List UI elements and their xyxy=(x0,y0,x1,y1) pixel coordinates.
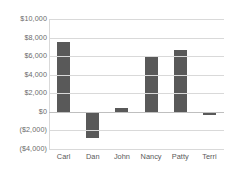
gridline xyxy=(49,130,224,131)
bar[interactable] xyxy=(86,112,99,138)
y-tick-label: $2,000 xyxy=(1,89,47,97)
x-tick-label: Nancy xyxy=(137,152,166,162)
plot-area xyxy=(49,19,224,149)
x-tick-label: John xyxy=(107,152,136,162)
bar[interactable] xyxy=(57,42,70,112)
bar[interactable] xyxy=(145,57,158,112)
y-axis-tick-labels: $10,000$8,000$6,000$4,000$2,000$0($2,000… xyxy=(0,0,47,176)
x-tick-label: Dan xyxy=(78,152,107,162)
y-tick-label: $8,000 xyxy=(1,34,47,42)
gridline xyxy=(49,19,224,20)
x-tick-label: Terri xyxy=(195,152,224,162)
y-tick-label: $0 xyxy=(1,108,47,116)
bar-chart: $10,000$8,000$6,000$4,000$2,000$0($2,000… xyxy=(0,0,229,176)
zero-baseline xyxy=(49,112,224,113)
x-tick-label: Patty xyxy=(166,152,195,162)
y-tick-label: $6,000 xyxy=(1,52,47,60)
gridline xyxy=(49,56,224,57)
y-tick-label: $4,000 xyxy=(1,71,47,79)
y-tick-label: $10,000 xyxy=(1,15,47,23)
x-tick-label: Carl xyxy=(49,152,78,162)
bar[interactable] xyxy=(174,50,187,112)
gridline xyxy=(49,93,224,94)
y-tick-label: ($2,000) xyxy=(1,126,47,134)
gridline xyxy=(49,75,224,76)
gridline xyxy=(49,38,224,39)
x-axis-tick-labels: CarlDanJohnNancyPattyTerri xyxy=(49,152,224,166)
gridline xyxy=(49,149,224,150)
y-tick-label: ($4,000) xyxy=(1,145,47,153)
